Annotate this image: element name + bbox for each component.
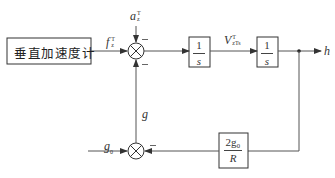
accelerometer-label: 垂直加速度计 (14, 43, 95, 62)
feedback-numerator: 2g₀ (226, 137, 241, 150)
top-summing-junction (128, 43, 144, 59)
minus-sign-g (142, 64, 148, 65)
integrator1-denominator: s (197, 54, 201, 67)
az-base: a (130, 9, 136, 23)
h-label: h (324, 45, 330, 57)
g0-sub: 0 (110, 149, 113, 155)
vz-label: VTzTs (224, 34, 241, 46)
vz-sub: zTs (232, 40, 240, 46)
az-label: aTz (130, 10, 141, 22)
block-diagram-canvas (0, 0, 335, 178)
feedback-denominator: R (230, 151, 237, 164)
bottom-summing-junction (128, 143, 144, 159)
integrator1-numerator: 1 (196, 40, 202, 53)
fz-sub: z (111, 42, 115, 48)
fz-base: f (106, 35, 109, 49)
g-label: g (142, 108, 148, 120)
az-sub: z (137, 16, 141, 22)
minus-sign-az (142, 39, 148, 40)
integrator2-transfer-function: 1 s (261, 40, 273, 67)
g0-label: g0 (104, 140, 113, 154)
vz-base: V (224, 33, 231, 47)
fz-label: fTz (106, 36, 115, 48)
feedback-path-line (248, 51, 299, 151)
minus-sign-feedback (150, 145, 156, 146)
integrator1-transfer-function: 1 s (193, 40, 205, 67)
integrator2-denominator: s (265, 54, 269, 67)
feedback-transfer-function: 2g₀ R (224, 137, 242, 164)
integrator2-numerator: 1 (264, 40, 270, 53)
